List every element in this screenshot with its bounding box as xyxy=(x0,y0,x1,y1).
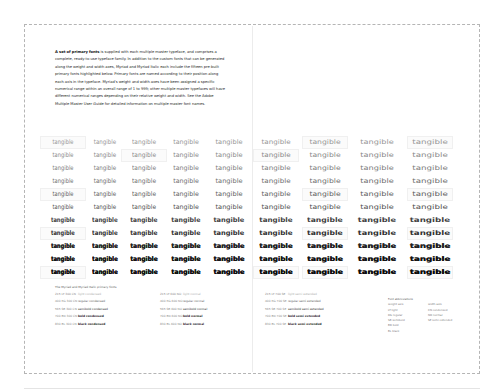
specimen-cell: tangible xyxy=(207,267,251,278)
specimen-word: tangible xyxy=(360,189,393,200)
specimen-cell: tangible xyxy=(164,241,208,252)
specimen-word: tangible xyxy=(213,254,244,265)
specimen-word: tangible xyxy=(94,189,116,200)
specimen-word: tangible xyxy=(360,163,393,174)
specimen-cell: tangible xyxy=(83,176,127,187)
primary-font-entry: 565 SB 700 SEsemibold semi extended xyxy=(265,306,324,313)
specimen-word: tangible xyxy=(92,215,118,226)
specimen-cell: tangible xyxy=(408,137,452,148)
specimen-cell: tangible xyxy=(207,150,251,161)
font-name: bold normal xyxy=(183,313,203,320)
specimen-word: tangible xyxy=(360,176,393,187)
specimen-word: tangible xyxy=(94,163,116,174)
specimen-word: tangible xyxy=(132,189,156,200)
primary-font-entry: 215 LT 700 SElight semi extended xyxy=(265,291,324,298)
specimen-word: tangible xyxy=(171,215,200,226)
specimen-cell: tangible xyxy=(303,228,347,239)
specimen-word: tangible xyxy=(51,228,75,239)
intro-body: is supplied with each multiple master ty… xyxy=(55,50,225,106)
font-code: 565 SB 700 SE xyxy=(265,306,288,313)
specimen-word: tangible xyxy=(94,202,116,213)
specimen-cell: tangible xyxy=(254,163,298,174)
font-name: bold semi extended xyxy=(288,313,320,320)
specimen-cell: tangible xyxy=(355,228,399,239)
specimen-cell: tangible xyxy=(122,215,166,226)
specimen-cell: tangible xyxy=(408,150,452,161)
primary-font-entry: 215 LT 600 NOlight normal xyxy=(160,291,207,298)
specimen-grid: tangibletangibletangibletangibletangible… xyxy=(36,137,476,277)
specimen-cell: tangible xyxy=(355,176,399,187)
specimen-word: tangible xyxy=(410,267,451,278)
specimen-cell: tangible xyxy=(355,267,399,278)
specimen-cell: tangible xyxy=(83,241,127,252)
specimen-cell: tangible xyxy=(83,228,127,239)
width-abbreviations: width axis CN condensedNO normalSE semi … xyxy=(428,302,468,323)
specimen-cell: tangible xyxy=(122,176,166,187)
specimen-word: tangible xyxy=(358,228,396,239)
primary-font-entry: 565 SB 600 NOsemibold normal xyxy=(160,306,207,313)
specimen-cell: tangible xyxy=(207,254,251,265)
font-code: 700 BD 300 CN xyxy=(55,313,78,320)
specimen-word: tangible xyxy=(309,137,340,148)
specimen-cell: tangible xyxy=(83,215,127,226)
specimen-cell: tangible xyxy=(355,254,399,265)
specimen-cell: tangible xyxy=(254,241,298,252)
primary-font-entry: 830 BL 300 CNblack condensed xyxy=(55,321,108,328)
specimen-cell: tangible xyxy=(41,176,85,187)
specimen-cell: tangible xyxy=(122,254,166,265)
font-name: light normal xyxy=(183,291,200,298)
specimen-cell: tangible xyxy=(355,241,399,252)
specimen-word: tangible xyxy=(259,215,292,226)
specimen-word: tangible xyxy=(215,202,242,213)
specimen-word: tangible xyxy=(259,254,292,265)
specimen-word: tangible xyxy=(215,150,242,161)
specimen-cell: tangible xyxy=(164,267,208,278)
specimen-word: tangible xyxy=(53,176,74,187)
specimen-word: tangible xyxy=(171,228,200,239)
specimen-word: tangible xyxy=(92,241,118,252)
font-name: semibold condensed xyxy=(78,306,108,313)
font-code: 830 BL 700 SE xyxy=(265,321,288,328)
specimen-word: tangible xyxy=(358,267,396,278)
specimen-cell: tangible xyxy=(164,137,208,148)
specimen-cell: tangible xyxy=(41,254,85,265)
specimen-word: tangible xyxy=(360,150,393,161)
specimen-cell: tangible xyxy=(355,150,399,161)
specimen-word: tangible xyxy=(307,215,343,226)
font-code: 565 SB 300 CN xyxy=(55,306,78,313)
specimen-cell: tangible xyxy=(254,176,298,187)
specimen-cell: tangible xyxy=(303,189,347,200)
specimen-word: tangible xyxy=(173,137,199,148)
specimen-word: tangible xyxy=(309,150,340,161)
specimen-cell: tangible xyxy=(41,241,85,252)
intro-lead: A set of primary fonts xyxy=(55,50,99,54)
specimen-word: tangible xyxy=(412,189,447,200)
specimen-cell: tangible xyxy=(122,241,166,252)
specimen-word: tangible xyxy=(261,189,290,200)
specimen-word: tangible xyxy=(213,215,244,226)
font-name: regular normal xyxy=(183,298,204,305)
font-code: 215 LT 300 CN xyxy=(55,291,78,298)
specimen-cell: tangible xyxy=(83,150,127,161)
specimen-cell: tangible xyxy=(122,137,166,148)
font-name: light semi extended xyxy=(288,291,317,298)
primary-font-entry: 400 RG 600 NOregular normal xyxy=(160,298,207,305)
specimen-cell: tangible xyxy=(254,254,298,265)
specimen-word: tangible xyxy=(215,189,242,200)
specimen-word: tangible xyxy=(132,202,156,213)
specimen-word: tangible xyxy=(171,267,200,278)
specimen-cell: tangible xyxy=(254,267,298,278)
specimen-word: tangible xyxy=(412,202,447,213)
intro-paragraph: A set of primary fonts is supplied with … xyxy=(55,49,225,108)
specimen-word: tangible xyxy=(53,202,74,213)
specimen-cell: tangible xyxy=(355,163,399,174)
specimen-cell: tangible xyxy=(122,228,166,239)
specimen-cell: tangible xyxy=(41,189,85,200)
specimen-word: tangible xyxy=(132,163,156,174)
specimen-word: tangible xyxy=(213,267,244,278)
specimen-word: tangible xyxy=(51,267,75,278)
specimen-word: tangible xyxy=(309,189,340,200)
specimen-word: tangible xyxy=(92,254,118,265)
specimen-cell: tangible xyxy=(164,163,208,174)
bottom-rule xyxy=(24,388,480,389)
